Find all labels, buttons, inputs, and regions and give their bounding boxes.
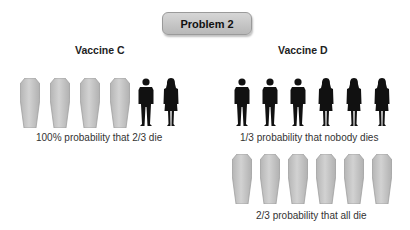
vaccine-d-caption-1: 1/3 probability that nobody dies xyxy=(240,132,378,143)
badge-label: Problem 2 xyxy=(180,18,233,30)
woman-icon xyxy=(374,78,390,126)
coffin-icon xyxy=(344,154,364,204)
coffin-icon xyxy=(50,78,70,128)
coffin-icon xyxy=(260,154,280,204)
coffin-icon xyxy=(316,154,336,204)
coffin-icon xyxy=(80,78,100,128)
man-icon xyxy=(138,78,154,126)
coffin-icon xyxy=(288,154,308,204)
vaccine-c-title: Vaccine C xyxy=(75,44,125,56)
coffin-icon xyxy=(20,78,40,128)
woman-icon xyxy=(163,78,179,126)
vaccine-d-caption-2: 2/3 probability that all die xyxy=(256,210,367,221)
woman-icon xyxy=(318,78,334,126)
coffin-icon xyxy=(372,154,392,204)
coffin-icon xyxy=(110,78,130,128)
vaccine-c-caption: 100% probability that 2/3 die xyxy=(36,132,162,143)
coffin-icon xyxy=(232,154,252,204)
man-icon xyxy=(290,78,306,126)
man-icon xyxy=(234,78,250,126)
vaccine-d-title: Vaccine D xyxy=(278,44,328,56)
problem-badge: Problem 2 xyxy=(162,12,252,35)
woman-icon xyxy=(346,78,362,126)
man-icon xyxy=(262,78,278,126)
